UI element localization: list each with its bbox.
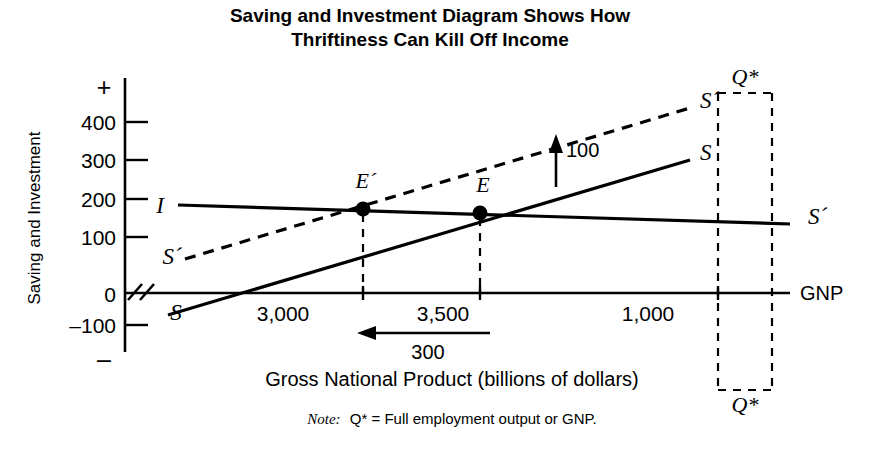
point-label-E-prime: E´ [355,168,377,193]
x-tick-label-3500: 3,500 [417,302,470,325]
figure-note-prefix: Note: [306,411,340,427]
curve-label-S-prime-right: S´ [700,88,720,113]
x-axis-name-label: GNP [800,282,843,304]
q-star-label-top: Q* [732,64,759,89]
y-tick-label-300: 300 [81,149,116,172]
shift-up-arrow-group: 100 [549,134,599,187]
figure-note-body: Q* = Full employment output or GNP. [350,410,597,427]
y-axis-ticks: 400 300 200 100 0 –100 [69,111,148,337]
shift-left-arrow-label: 300 [411,341,444,363]
full-employment-band [718,93,772,390]
y-tick-label-0: 0 [104,283,116,306]
shift-up-arrow-label: 100 [566,139,599,161]
y-tick-label-100: 100 [81,226,116,249]
x-tick-label-3000: 3,000 [257,302,310,325]
shift-up-arrow-head [549,134,563,153]
y-axis-title: Saving and Investment [25,131,44,304]
x-axis-title: Gross National Product (billions of doll… [265,368,639,390]
curve-label-I-left: I [155,193,165,218]
chart-title-line-2: Thriftiness Can Kill Off Income [291,29,569,50]
y-tick-label-200: 200 [81,188,116,211]
figure-note: Note: Q* = Full employment output or GNP… [306,410,596,427]
curve-label-S-prime-left: S´ [162,244,182,269]
x-tick-label-1000: 1,000 [622,302,675,325]
y-axis-minus-sign: – [97,345,111,373]
shift-left-arrow-group: 300 [357,326,490,363]
curve-label-S-right: S [700,140,712,165]
y-axis-plus-sign: + [97,73,112,101]
curve-label-S-left: S [170,300,182,325]
curve-label-I-right: S´ [808,204,828,229]
saving-investment-diagram: Saving and Investment Diagram Shows How … [0,0,873,458]
shift-left-arrow-head [357,326,376,340]
point-label-E: E [475,172,490,197]
y-tick-label-400: 400 [81,111,116,134]
y-tick-label-minus-100: –100 [69,314,116,337]
chart-title-line-1: Saving and Investment Diagram Shows How [230,5,630,26]
q-star-label-bottom: Q* [732,392,759,417]
